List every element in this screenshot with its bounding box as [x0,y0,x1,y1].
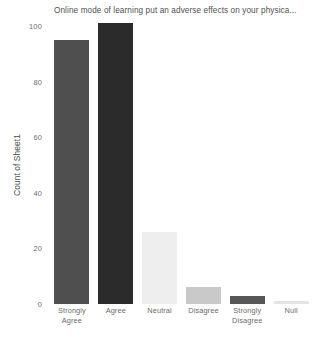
x-axis-label-neutral[interactable]: Neutral [138,306,182,316]
bar-agree[interactable] [98,23,133,304]
x-axis-label-line: Agree [50,316,94,326]
bar-neutral[interactable] [142,232,177,304]
y-axis-ticks: 020406080100 [0,26,48,304]
bar-strongly-disagree[interactable] [230,296,265,304]
x-axis-label-disagree[interactable]: Disagree [182,306,226,316]
x-axis-label-null[interactable]: Null [269,306,313,316]
y-axis-tick-label: 40 [33,188,42,197]
y-axis-tick-label: 80 [33,77,42,86]
y-axis-tick-label: 0 [38,300,42,309]
x-axis-label-line: Agree [94,306,138,316]
y-axis-tick-label: 60 [33,133,42,142]
x-axis-label-strongly-agree[interactable]: StronglyAgree [50,306,94,325]
chart-viz: Online mode of learning put an adverse e… [0,0,313,347]
bar-slot [182,26,226,304]
bar-slot [50,26,94,304]
x-axis-label-line: Strongly [50,306,94,316]
x-axis-label-line: Disagree [225,316,269,326]
x-axis-labels: StronglyAgreeAgreeNeutralDisagreeStrongl… [50,306,313,346]
bar-slot [94,26,138,304]
bar-series [50,26,313,304]
y-axis-tick-label: 20 [33,244,42,253]
x-axis-label-line: Disagree [182,306,226,316]
bar-slot [269,26,313,304]
bar-slot [138,26,182,304]
x-axis-label-line: Null [269,306,313,316]
chart-title: Online mode of learning put an adverse e… [54,5,313,16]
x-axis-label-line: Neutral [138,306,182,316]
bar-disagree[interactable] [186,287,221,304]
bar-slot [225,26,269,304]
y-axis-tick-label: 100 [29,22,42,31]
x-axis-label-agree[interactable]: Agree [94,306,138,316]
x-axis-label-strongly-disagree[interactable]: StronglyDisagree [225,306,269,325]
bar-null[interactable] [274,301,309,304]
x-axis-label-line: Strongly [225,306,269,316]
bar-strongly-agree[interactable] [54,40,89,304]
plot-area [50,26,313,304]
